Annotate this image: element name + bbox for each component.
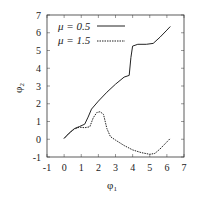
x-tick-label: 1: [79, 162, 84, 173]
legend-label-0: μ = 0.5: [57, 20, 91, 32]
svg-text:φ2: φ2: [12, 83, 26, 93]
legend-label-1: μ = 1.5: [57, 34, 91, 46]
svg-text:φ1: φ1: [107, 179, 117, 193]
y-tick-label: -1: [33, 152, 41, 163]
y-tick-labels: -101234567: [33, 10, 41, 163]
line-chart: -101234567 -101234567 μ = 0.5 μ = 1.5 φ1…: [0, 0, 198, 200]
x-tick-label: 6: [164, 162, 169, 173]
x-tick-label: 7: [182, 162, 187, 173]
x-tick-label: -1: [43, 162, 51, 173]
y-tick-label: 6: [36, 27, 41, 38]
series-line-1: [64, 112, 170, 155]
y-tick-label: 0: [36, 134, 41, 145]
x-tick-label: 0: [62, 162, 67, 173]
legend: μ = 0.5 μ = 1.5: [57, 20, 125, 46]
y-axis-label: φ2: [12, 83, 26, 93]
y-tick-label: 3: [36, 81, 41, 92]
y-tick-label: 2: [36, 98, 41, 109]
y-tick-label: 5: [36, 45, 41, 56]
x-tick-label: 3: [113, 162, 118, 173]
x-tick-label: 2: [96, 162, 101, 173]
y-tick-label: 1: [36, 116, 41, 127]
x-axis-label: φ1: [107, 179, 117, 193]
y-tick-label: 7: [36, 10, 41, 21]
x-tick-label: 5: [147, 162, 152, 173]
y-tick-label: 4: [36, 63, 41, 74]
x-tick-label: 4: [130, 162, 135, 173]
x-tick-labels: -101234567: [43, 162, 187, 173]
